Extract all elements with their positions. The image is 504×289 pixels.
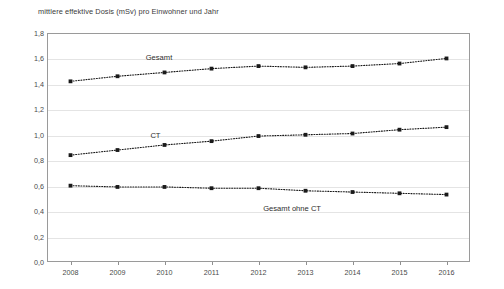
- data-point-marker: [257, 186, 261, 190]
- data-point-marker: [163, 185, 167, 189]
- data-point-marker: [210, 186, 214, 190]
- data-point-marker: [304, 65, 308, 69]
- data-point-marker: [304, 189, 308, 193]
- series-line: [71, 58, 447, 81]
- data-point-marker: [304, 133, 308, 137]
- series-gesamt-ohne-ct: [69, 184, 449, 197]
- data-point-marker: [351, 64, 355, 68]
- chart-container: mittlere effektive Dosis (mSv) pro Einwo…: [0, 0, 504, 289]
- data-point-marker: [398, 128, 402, 132]
- data-point-marker: [257, 134, 261, 138]
- data-point-marker: [210, 139, 214, 143]
- data-point-marker: [163, 143, 167, 147]
- series-line: [71, 127, 447, 155]
- data-point-marker: [116, 148, 120, 152]
- series-layer: [0, 0, 504, 289]
- data-point-marker: [445, 193, 449, 197]
- data-point-marker: [69, 153, 73, 157]
- data-point-marker: [257, 64, 261, 68]
- series-ct: [69, 125, 449, 157]
- series-gesamt: [69, 57, 449, 84]
- data-point-marker: [69, 79, 73, 83]
- data-point-marker: [445, 57, 449, 61]
- series-label-gesamt-ohne-ct: Gesamt ohne CT: [263, 204, 321, 213]
- series-label-gesamt: Gesamt: [146, 53, 173, 62]
- data-point-marker: [116, 185, 120, 189]
- data-point-marker: [445, 125, 449, 129]
- data-point-marker: [398, 62, 402, 66]
- series-label-ct: CT: [150, 131, 160, 140]
- data-point-marker: [351, 132, 355, 136]
- data-point-marker: [69, 184, 73, 188]
- data-point-marker: [116, 74, 120, 78]
- data-point-marker: [210, 67, 214, 71]
- data-point-marker: [351, 190, 355, 194]
- data-point-marker: [398, 191, 402, 195]
- data-point-marker: [163, 71, 167, 75]
